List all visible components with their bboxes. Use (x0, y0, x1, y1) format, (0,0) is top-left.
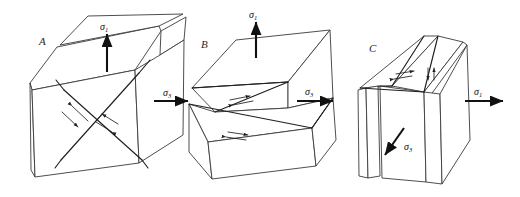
panel-b: σ1 σ3 B (189, 9, 336, 179)
panel-c-sigma1-label: σ1 (474, 86, 482, 98)
panel-c-right-slab-front (424, 92, 442, 184)
panel-c: σ1 σ3 C (358, 36, 503, 184)
panel-c-center-front-face (380, 86, 426, 182)
figure-canvas: σ1 σ3 A (0, 0, 520, 197)
panel-a-letter: A (38, 35, 46, 47)
panel-b-sigma1-label: σ1 (249, 9, 257, 21)
panel-a-fracture-1-bottom (142, 160, 148, 168)
panel-c-left-slab-front (366, 86, 380, 178)
fault-block-figure: σ1 σ3 A (0, 0, 520, 197)
panel-b-letter: B (201, 38, 208, 50)
panel-a: σ1 σ3 A (30, 14, 188, 177)
panel-c-letter: C (369, 42, 377, 54)
